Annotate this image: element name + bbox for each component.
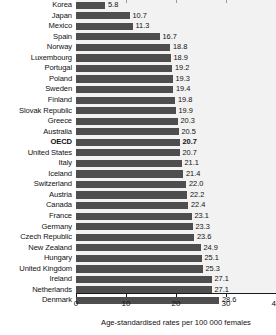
bar-row: Slovak Republic19.9: [0, 106, 276, 117]
value-label: 10.7: [133, 11, 147, 22]
x-tick-mark-top: [176, 0, 177, 3]
category-label: Japan: [0, 11, 72, 22]
category-label: France: [0, 211, 72, 222]
category-label: Switzerland: [0, 179, 72, 190]
category-label: New Zealand: [0, 243, 72, 254]
bar-row: Ireland27.1: [0, 274, 276, 285]
bar: [76, 23, 133, 30]
category-label: Iceland: [0, 169, 72, 180]
value-label: 19.8: [178, 95, 192, 106]
category-label: Italy: [0, 158, 72, 169]
x-tick-label: 0: [61, 299, 91, 308]
value-label: 25.3: [206, 264, 220, 275]
bar-row: France23.1: [0, 211, 276, 222]
bar: [76, 139, 180, 146]
bar-row: Czech Republic23.6: [0, 232, 276, 243]
bar: [76, 255, 202, 262]
bar-row: Canada22.4: [0, 200, 276, 211]
category-label: Korea: [0, 0, 72, 11]
bar-row: Mexico11.3: [0, 21, 276, 32]
bar-row: Australia20.5: [0, 127, 276, 138]
value-label: 20.7: [183, 137, 197, 148]
bar-row: Korea5.8: [0, 0, 276, 11]
value-label: 21.4: [186, 169, 200, 180]
bar-row: Austria22.2: [0, 190, 276, 201]
bar-row: Japan10.7: [0, 11, 276, 22]
bar: [76, 54, 171, 61]
value-label: 20.3: [181, 116, 195, 127]
bar: [76, 297, 219, 304]
value-label: 11.3: [136, 21, 150, 32]
bar-rows-container: Korea5.8Japan10.7Mexico11.3Spain16.7Norw…: [0, 0, 276, 293]
category-label: Germany: [0, 222, 72, 233]
bar: [76, 2, 105, 9]
bar-row: OECD20.7: [0, 137, 276, 148]
category-label: Czech Republic: [0, 232, 72, 243]
category-label: Greece: [0, 116, 72, 127]
bar-row: Iceland21.4: [0, 169, 276, 180]
value-label: 19.9: [179, 106, 193, 117]
bar-row: Germany23.3: [0, 222, 276, 233]
bar: [76, 149, 180, 156]
bar: [76, 75, 173, 82]
value-label: 20.7: [183, 148, 197, 159]
bar: [76, 107, 176, 114]
category-label: Ireland: [0, 274, 72, 285]
bar: [76, 202, 188, 209]
bar: [76, 223, 193, 230]
category-label: OECD: [0, 137, 72, 148]
bar: [76, 234, 194, 241]
value-label: 22.4: [191, 200, 205, 211]
category-label: Poland: [0, 74, 72, 85]
bar: [76, 276, 212, 283]
value-label: 23.3: [196, 222, 210, 233]
value-label: 27.1: [215, 274, 229, 285]
value-label: 23.1: [195, 211, 209, 222]
value-label: 19.4: [176, 84, 190, 95]
x-tick-mark-top: [226, 0, 227, 3]
category-label: United States: [0, 148, 72, 159]
bar-row: Sweden19.4: [0, 84, 276, 95]
category-label: Austria: [0, 190, 72, 201]
category-label: Luxembourg: [0, 53, 72, 64]
bar-row: United Kingdom25.3: [0, 264, 276, 275]
category-label: Canada: [0, 200, 72, 211]
bar-row: Switzerland22.0: [0, 179, 276, 190]
category-label: Finland: [0, 95, 72, 106]
value-label: 5.8: [108, 0, 118, 11]
category-label: Norway: [0, 42, 72, 53]
x-tick-label: 20: [161, 299, 191, 308]
category-label: Spain: [0, 32, 72, 43]
value-label: 20.5: [182, 127, 196, 138]
bar: [76, 86, 173, 93]
bar-row: Norway18.8: [0, 42, 276, 53]
value-label: 25.1: [205, 253, 219, 264]
bar-row: United States20.7: [0, 148, 276, 159]
x-tick-label: 10: [111, 299, 141, 308]
bar: [76, 97, 175, 104]
bar: [76, 213, 192, 220]
bar: [76, 12, 130, 19]
bar-row: Portugal19.2: [0, 63, 276, 74]
bar: [76, 65, 172, 72]
bar-row: Spain16.7: [0, 32, 276, 43]
bar-chart: Korea5.8Japan10.7Mexico11.3Spain16.7Norw…: [0, 0, 276, 335]
bar: [76, 44, 170, 51]
bar: [76, 181, 186, 188]
bar-row: Finland19.8: [0, 95, 276, 106]
bar-row: New Zealand24.9: [0, 243, 276, 254]
category-label: Mexico: [0, 21, 72, 32]
category-label: Slovak Republic: [0, 106, 72, 117]
bar: [76, 33, 160, 40]
value-label: 22.2: [190, 190, 204, 201]
value-label: 22.0: [189, 179, 203, 190]
bar: [76, 118, 178, 125]
x-tick-label: 30: [211, 299, 241, 308]
category-label: United Kingdom: [0, 264, 72, 275]
bar-row: Italy21.1: [0, 158, 276, 169]
category-label: Hungary: [0, 253, 72, 264]
value-label: 16.7: [163, 32, 177, 43]
x-tick-mark-top: [126, 0, 127, 3]
x-tick-mark: [126, 293, 127, 297]
bar-row: Luxembourg18.9: [0, 53, 276, 64]
